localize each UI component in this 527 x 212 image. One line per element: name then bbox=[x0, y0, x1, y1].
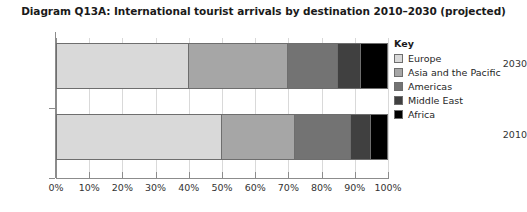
bar-segment-2030-asia-and-the-pacific bbox=[189, 43, 289, 89]
legend-item-label: Americas bbox=[408, 81, 452, 92]
y-axis-minor-tick-0 bbox=[49, 108, 55, 109]
plot-area bbox=[56, 38, 388, 172]
gridline-100% bbox=[388, 38, 389, 172]
x-axis-tick-50% bbox=[222, 172, 223, 178]
legend-swatch-icon bbox=[394, 82, 403, 91]
legend-item-africa: Africa bbox=[394, 108, 524, 121]
bar-segment-2030-middle-east bbox=[338, 43, 361, 89]
x-axis-tick-60% bbox=[255, 172, 256, 178]
bar-segment-2030-europe bbox=[56, 43, 189, 89]
x-axis-tick-label-100%: 100% bbox=[374, 182, 401, 193]
x-axis-tick-30% bbox=[156, 172, 157, 178]
bar-stack-2030 bbox=[56, 43, 388, 89]
x-axis-tick-label-90%: 90% bbox=[344, 182, 365, 193]
y-axis-minor-tick-1 bbox=[49, 178, 55, 179]
x-axis-tick-label-50%: 50% bbox=[211, 182, 232, 193]
x-axis-tick-label-60%: 60% bbox=[245, 182, 266, 193]
x-axis-tick-40% bbox=[189, 172, 190, 178]
legend-item-middle-east: Middle East bbox=[394, 94, 524, 107]
legend-item-asia-and-the-pacific: Asia and the Pacific bbox=[394, 66, 524, 79]
bar-stack-2010 bbox=[56, 114, 388, 160]
x-axis-tick-label-40%: 40% bbox=[178, 182, 199, 193]
legend-item-label: Middle East bbox=[408, 95, 463, 106]
bar-segment-2010-africa bbox=[371, 114, 388, 160]
x-axis-line bbox=[56, 178, 389, 179]
legend-item-label: Africa bbox=[408, 109, 435, 120]
legend-item-americas: Americas bbox=[394, 80, 524, 93]
legend-swatch-icon bbox=[394, 96, 403, 105]
x-axis-tick-70% bbox=[288, 172, 289, 178]
x-axis-tick-0% bbox=[56, 172, 57, 178]
bar-segment-2010-asia-and-the-pacific bbox=[222, 114, 295, 160]
bar-segment-2010-americas bbox=[295, 114, 351, 160]
chart-container: Diagram Q13A: International tourist arri… bbox=[0, 0, 527, 212]
chart-legend: Key EuropeAsia and the PacificAmericasMi… bbox=[394, 38, 524, 122]
x-axis-tick-10% bbox=[89, 172, 90, 178]
bar-segment-2010-europe bbox=[56, 114, 222, 160]
legend-swatch-icon bbox=[394, 110, 403, 119]
legend-item-europe: Europe bbox=[394, 52, 524, 65]
legend-item-label: Asia and the Pacific bbox=[408, 67, 501, 78]
legend-title: Key bbox=[394, 38, 524, 49]
y-axis-tick-label-2010: 2010 bbox=[483, 129, 527, 140]
bar-segment-2030-africa bbox=[361, 43, 388, 89]
legend-items: EuropeAsia and the PacificAmericasMiddle… bbox=[394, 52, 524, 121]
x-axis-tick-label-0%: 0% bbox=[48, 182, 63, 193]
x-axis-tick-20% bbox=[122, 172, 123, 178]
legend-swatch-icon bbox=[394, 54, 403, 63]
bar-segment-2030-americas bbox=[288, 43, 338, 89]
x-axis-tick-100% bbox=[388, 172, 389, 178]
x-axis-tick-90% bbox=[355, 172, 356, 178]
legend-item-label: Europe bbox=[408, 53, 441, 64]
x-axis-tick-label-80%: 80% bbox=[311, 182, 332, 193]
legend-swatch-icon bbox=[394, 68, 403, 77]
chart-title: Diagram Q13A: International tourist arri… bbox=[0, 5, 527, 17]
x-axis-tick-label-10%: 10% bbox=[79, 182, 100, 193]
x-axis-tick-label-30%: 30% bbox=[145, 182, 166, 193]
x-axis-tick-label-70%: 70% bbox=[278, 182, 299, 193]
x-axis-tick-label-20%: 20% bbox=[112, 182, 133, 193]
x-axis-tick-80% bbox=[322, 172, 323, 178]
bar-segment-2010-middle-east bbox=[351, 114, 371, 160]
